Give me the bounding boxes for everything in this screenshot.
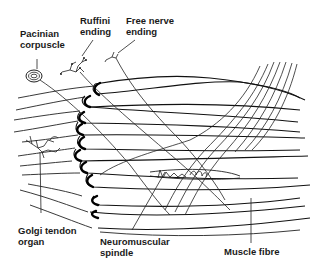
tendon-junction-caps xyxy=(75,83,100,218)
pacinian-corpuscle-label: Pacinian corpuscle xyxy=(20,28,65,50)
free-nerve-leader xyxy=(118,40,135,53)
ruffini-leader xyxy=(82,40,93,56)
muscle-fibres xyxy=(74,76,310,235)
golgi-tendon-organ-label: Golgi tendon organ xyxy=(18,225,77,247)
ruffini-ending-label: Ruffini ending xyxy=(80,15,111,37)
tendon-fibres xyxy=(14,86,95,228)
golgi-leader xyxy=(40,152,41,213)
free-nerve-ending-label: Free nerve ending xyxy=(126,15,174,37)
ruffini-ending xyxy=(60,57,230,210)
nerve-bundle xyxy=(100,62,297,215)
muscle-fibre-label: Muscle fibre xyxy=(224,246,279,257)
neuromuscular-spindle-label: Neuromuscular spindle xyxy=(100,236,170,258)
spindle-leader xyxy=(132,172,165,230)
pacinian-corpuscle xyxy=(26,70,170,215)
muscle-receptor-diagram: Pacinian corpuscle Ruffini ending Free n… xyxy=(0,0,331,265)
